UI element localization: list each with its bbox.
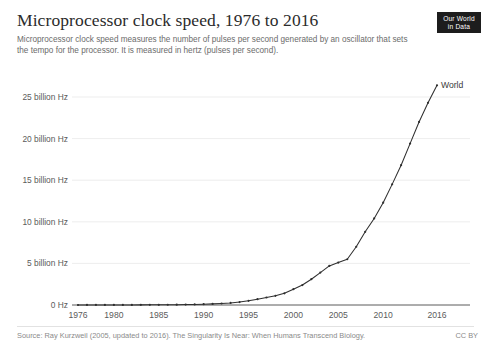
- data-point[interactable]: [140, 304, 142, 306]
- data-point[interactable]: [292, 288, 294, 290]
- y-axis-tick-label: 5 billion Hz: [27, 258, 68, 268]
- plot-area: 0 Hz5 billion Hz10 billion Hz15 billion …: [0, 0, 491, 355]
- data-point[interactable]: [391, 183, 393, 185]
- data-point[interactable]: [436, 84, 438, 86]
- y-axis-tick-label: 10 billion Hz: [22, 217, 68, 227]
- data-point[interactable]: [274, 295, 276, 297]
- y-axis-tick-label: 0 Hz: [51, 300, 68, 310]
- data-point[interactable]: [247, 300, 249, 302]
- x-axis-tick-label: 1980: [104, 310, 123, 320]
- data-point[interactable]: [185, 303, 187, 305]
- x-axis-tick-labels: 197619801985199019952000200520102016: [68, 310, 446, 320]
- y-axis-tick-label: 25 billion Hz: [22, 92, 68, 102]
- data-point[interactable]: [328, 265, 330, 267]
- data-point[interactable]: [95, 304, 97, 306]
- x-axis-tick-label: 2010: [374, 310, 393, 320]
- data-point[interactable]: [194, 303, 196, 305]
- data-point[interactable]: [427, 102, 429, 104]
- data-point[interactable]: [382, 202, 384, 204]
- data-point[interactable]: [176, 304, 178, 306]
- data-point[interactable]: [265, 296, 267, 298]
- data-point[interactable]: [229, 302, 231, 304]
- data-point[interactable]: [149, 304, 151, 306]
- data-point[interactable]: [283, 292, 285, 294]
- source-note: Source: Ray Kurzweil (2005, updated to 2…: [17, 331, 365, 340]
- data-point[interactable]: [337, 261, 339, 263]
- series-world[interactable]: [77, 84, 438, 306]
- data-point[interactable]: [373, 217, 375, 219]
- data-point[interactable]: [86, 304, 88, 306]
- data-point[interactable]: [364, 231, 366, 233]
- chart-card: Microprocessor clock speed, 1976 to 2016…: [0, 0, 491, 355]
- y-axis-tick-labels: 0 Hz5 billion Hz10 billion Hz15 billion …: [22, 92, 68, 310]
- data-point[interactable]: [221, 302, 223, 304]
- data-point[interactable]: [104, 304, 106, 306]
- x-axis-tick-label: 1995: [239, 310, 258, 320]
- footer-divider: [17, 326, 474, 327]
- data-point[interactable]: [158, 304, 160, 306]
- series-end-label: World: [441, 80, 464, 90]
- data-point[interactable]: [400, 164, 402, 166]
- x-axis-tick-label: 2000: [284, 310, 303, 320]
- data-point[interactable]: [418, 121, 420, 123]
- series-line[interactable]: [78, 85, 437, 305]
- data-point[interactable]: [131, 304, 133, 306]
- y-axis-tick-label: 20 billion Hz: [22, 134, 68, 144]
- data-point[interactable]: [77, 304, 79, 306]
- data-point[interactable]: [113, 304, 115, 306]
- data-point[interactable]: [203, 303, 205, 305]
- data-point[interactable]: [301, 284, 303, 286]
- data-point[interactable]: [212, 303, 214, 305]
- data-point[interactable]: [310, 278, 312, 280]
- x-axis-tick-label: 1976: [68, 310, 87, 320]
- data-point[interactable]: [238, 301, 240, 303]
- data-point[interactable]: [167, 304, 169, 306]
- data-point[interactable]: [122, 304, 124, 306]
- x-axis-tick-label: 2005: [329, 310, 348, 320]
- series-name-label: World: [441, 80, 464, 90]
- x-axis-tick-label: 1985: [149, 310, 168, 320]
- x-axis-tick-label: 2016: [427, 310, 446, 320]
- data-point[interactable]: [409, 142, 411, 144]
- line-chart-svg: 0 Hz5 billion Hz10 billion Hz15 billion …: [0, 0, 491, 355]
- data-point[interactable]: [355, 246, 357, 248]
- data-point[interactable]: [346, 258, 348, 260]
- gridlines: [72, 97, 470, 263]
- x-axis-tick-label: 1990: [194, 310, 213, 320]
- data-point[interactable]: [319, 271, 321, 273]
- data-point[interactable]: [256, 298, 258, 300]
- license-note: CC BY: [455, 331, 478, 340]
- y-axis-tick-label: 15 billion Hz: [22, 175, 68, 185]
